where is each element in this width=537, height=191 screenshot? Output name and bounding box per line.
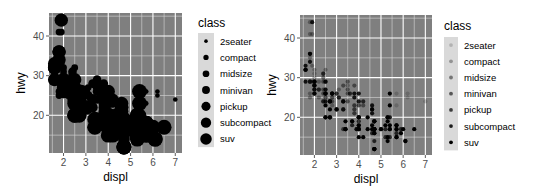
y-tick-label: 30 [33, 70, 45, 81]
data-point [379, 127, 383, 131]
data-point [330, 95, 334, 99]
data-point [383, 123, 387, 127]
data-point [310, 64, 314, 68]
data-point [328, 107, 332, 111]
legend-item-suv: suv [200, 133, 235, 145]
data-point [337, 87, 341, 91]
x-axis-ticks: 234567 [312, 155, 429, 170]
legend-label: suv [220, 133, 235, 144]
data-point [352, 83, 356, 87]
data-point [388, 123, 392, 127]
legend-label: subcompact [464, 121, 516, 132]
data-point [308, 60, 312, 64]
data-point [341, 107, 345, 111]
data-point [357, 99, 361, 103]
x-tick-label: 5 [378, 159, 384, 170]
data-point [312, 87, 316, 91]
data-point [323, 115, 327, 119]
data-point [394, 135, 398, 139]
data-point [323, 103, 327, 107]
legend-symbol [204, 39, 208, 43]
data-point [323, 95, 327, 99]
legend-items: 2seatercompactmidsizeminivanpickupsubcom… [449, 40, 515, 148]
data-point [357, 119, 361, 123]
data-point [357, 135, 361, 139]
data-point [346, 80, 350, 84]
data-point [60, 84, 67, 91]
data-point [403, 139, 407, 143]
data-point [312, 83, 316, 87]
legend-symbol [449, 124, 453, 128]
data-point [399, 131, 403, 135]
legend-label: compact [464, 56, 500, 67]
data-point [357, 127, 361, 131]
data-point [341, 83, 345, 87]
data-point [323, 91, 327, 95]
legend-label: midsize [464, 72, 496, 83]
data-point [399, 127, 403, 131]
data-point [352, 107, 356, 111]
y-tick-label: 40 [284, 33, 296, 44]
legend-symbol [202, 86, 210, 94]
data-point [310, 20, 314, 24]
data-point [303, 80, 307, 84]
data-point [343, 119, 347, 123]
data-point [361, 99, 365, 103]
x-tick-label: 7 [173, 157, 179, 168]
data-point [357, 103, 361, 107]
data-point [383, 127, 387, 131]
data-point [55, 13, 68, 26]
data-point [330, 103, 334, 107]
data-point [335, 107, 339, 111]
legend-label: 2seater [464, 40, 496, 51]
legend-symbol [449, 92, 453, 96]
data-point [361, 103, 365, 107]
data-point [303, 68, 307, 72]
data-point [412, 127, 416, 131]
data-point [312, 80, 316, 84]
legend-item-subcompact: subcompact [449, 121, 515, 132]
data-point [352, 91, 356, 95]
data-point [337, 95, 341, 99]
data-point [346, 87, 350, 91]
data-point [323, 80, 327, 84]
data-point [303, 64, 307, 68]
data-point [366, 115, 370, 119]
data-point [312, 68, 316, 72]
data-point [352, 111, 356, 115]
x-axis-title: displ [354, 172, 379, 186]
data-point [310, 32, 314, 36]
data-point [405, 91, 409, 95]
legend-label: midsize [220, 68, 252, 79]
data-point [405, 95, 409, 99]
data-point [350, 119, 354, 123]
x-tick-label: 7 [423, 159, 429, 170]
y-tick-label: 20 [284, 112, 296, 123]
x-tick-label: 2 [312, 159, 318, 170]
x-tick-label: 5 [128, 157, 134, 168]
data-point [58, 29, 65, 36]
data-point [308, 52, 312, 56]
x-tick-label: 2 [61, 157, 67, 168]
data-point [132, 96, 147, 111]
legend: class 2seatercompactmidsizeminivanpickup… [198, 16, 272, 147]
data-point [155, 89, 160, 94]
data-point [308, 91, 312, 95]
data-point [155, 93, 160, 98]
data-point [312, 91, 316, 95]
data-point [352, 103, 356, 107]
legend-title: class [444, 19, 471, 33]
data-point [370, 111, 374, 115]
y-axis-title: hwy [265, 74, 279, 95]
data-point [78, 100, 85, 107]
data-point [323, 68, 327, 72]
data-point [388, 135, 392, 139]
data-point [357, 91, 361, 95]
data-point [308, 95, 312, 99]
data-point [110, 120, 125, 135]
data-point [328, 99, 332, 103]
data-point [394, 103, 398, 107]
data-point [173, 97, 178, 102]
data-point [388, 115, 392, 119]
chart-canvas: 203040 234567 displ hwy class 2seatercom… [0, 0, 537, 191]
